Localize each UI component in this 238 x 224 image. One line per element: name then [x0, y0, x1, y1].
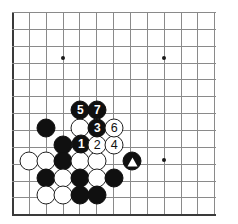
- grid-line-horizontal: [12, 46, 216, 47]
- go-board: 1234567: [0, 0, 238, 224]
- move-stone-6: 6: [105, 119, 124, 138]
- star-point: [162, 56, 166, 60]
- star-point: [162, 158, 166, 162]
- move-number-label: 2: [94, 138, 100, 151]
- move-number-label: 1: [78, 138, 84, 150]
- move-stone-4: 4: [105, 136, 124, 155]
- move-number-label: 3: [94, 122, 100, 134]
- move-number-label: 6: [111, 121, 117, 134]
- move-number-label: 4: [111, 138, 117, 151]
- move-number-label: 5: [77, 104, 83, 116]
- grid-line-horizontal: [12, 96, 216, 97]
- grid-line-horizontal: [12, 29, 216, 30]
- grid-line-horizontal: [12, 113, 216, 114]
- grid-line-horizontal: [12, 214, 216, 216]
- black-stone: [88, 186, 107, 205]
- move-stone-7: 7: [88, 101, 107, 120]
- grid-line-horizontal: [12, 63, 216, 64]
- triangle-mark-icon: [127, 157, 137, 166]
- star-point: [61, 56, 65, 60]
- black-stone: [105, 169, 124, 188]
- grid-line-horizontal: [12, 79, 216, 80]
- move-number-label: 7: [94, 104, 100, 116]
- marked-black-stone-triangle: [123, 152, 142, 171]
- grid-line-horizontal: [12, 12, 216, 13]
- black-stone: [37, 119, 56, 138]
